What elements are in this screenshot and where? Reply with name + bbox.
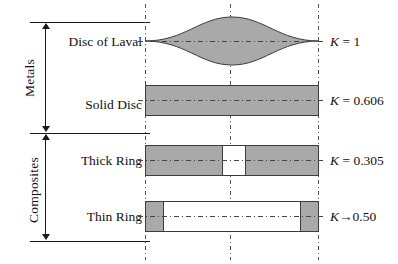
- k-number-thick-ring: 0.305: [353, 153, 383, 168]
- centerline-solid-disc: [138, 100, 326, 101]
- row-label-solid-disc: Solid Disc: [52, 97, 142, 113]
- k-symbol-thick-ring: K: [330, 153, 339, 168]
- row-label-thick-ring: Thick Ring: [52, 153, 142, 169]
- k-relation-thick-ring: =: [339, 153, 353, 168]
- k-value-thick-ring: K = 0.305: [330, 153, 384, 169]
- k-symbol-disc-of-laval: K: [330, 34, 339, 49]
- k-symbol-solid-disc: K: [330, 93, 339, 108]
- k-value-disc-of-laval: K = 1: [330, 34, 360, 50]
- k-relation-thin-ring: →: [339, 209, 353, 224]
- k-number-solid-disc: 0.606: [353, 93, 383, 108]
- k-value-solid-disc: K = 0.606: [330, 93, 384, 109]
- composites-span-arrow: [45, 135, 46, 239]
- centerline-disc-of-laval: [138, 41, 326, 42]
- bracket-rule-bottom: [30, 241, 150, 242]
- row-label-disc-of-laval: Disc of Laval: [52, 34, 142, 50]
- composites-group-label: Composites: [26, 145, 42, 235]
- metals-group-label: Metals: [22, 33, 38, 123]
- k-symbol-thin-ring: K: [330, 209, 339, 224]
- shape-factor-diagram: Metals Composites Disc of Laval Solid Di…: [0, 0, 398, 264]
- metals-span-arrow: [45, 24, 46, 131]
- k-value-thin-ring: K→0.50: [330, 209, 376, 225]
- centerline-thick-ring: [138, 160, 326, 161]
- k-number-thin-ring: 0.50: [353, 209, 377, 224]
- row-label-thin-ring: Thin Ring: [52, 209, 142, 225]
- k-relation-disc-of-laval: =: [339, 34, 353, 49]
- centerline-thin-ring: [138, 216, 326, 217]
- k-relation-solid-disc: =: [339, 93, 353, 108]
- k-number-disc-of-laval: 1: [353, 34, 360, 49]
